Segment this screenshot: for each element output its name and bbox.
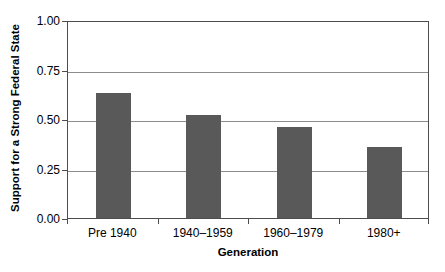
x-axis-tick-mark: [339, 219, 340, 224]
y-axis-tick-mark: [62, 21, 67, 22]
bar: [186, 115, 221, 218]
x-axis-tick-label: 1960–1979: [248, 226, 339, 240]
y-axis-tick-label: 0.25: [24, 164, 60, 176]
bar: [96, 93, 131, 218]
plot-area: [67, 21, 429, 219]
x-axis-tick-mark: [158, 219, 159, 224]
x-axis-tick-mark: [67, 219, 68, 224]
y-axis-tick-label: 0.00: [24, 213, 60, 225]
y-axis-tick-mark: [62, 120, 67, 121]
y-axis-tick-labels: 1.000.750.500.250.00: [24, 0, 60, 272]
y-axis-tick-label: 0.75: [24, 65, 60, 77]
y-axis-title: Support for a Strong Federal State: [9, 11, 21, 226]
x-axis-tick-label: 1980+: [339, 226, 430, 240]
x-axis-tick-mark: [248, 219, 249, 224]
y-axis-tick-label: 1.00: [24, 15, 60, 27]
bar: [277, 127, 312, 218]
x-axis-title: Generation: [67, 246, 429, 258]
y-axis-tick-label: 0.50: [24, 114, 60, 126]
y-axis-tick-mark: [62, 170, 67, 171]
x-axis-tick-label: Pre 1940: [67, 226, 158, 240]
bar-chart-figure: Support for a Strong Federal State 1.000…: [0, 0, 445, 272]
x-axis-tick-mark: [428, 219, 429, 224]
x-axis-tick-labels: Pre 19401940–19591960–19791980+: [67, 226, 429, 244]
bar: [367, 147, 402, 218]
x-axis-tick-label: 1940–1959: [158, 226, 249, 240]
bars-group: [68, 22, 428, 218]
y-axis-tick-mark: [62, 71, 67, 72]
